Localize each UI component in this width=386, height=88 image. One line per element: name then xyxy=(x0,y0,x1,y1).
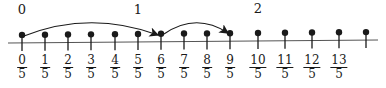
point-dot xyxy=(181,30,187,36)
fraction-denominator: 5 xyxy=(203,68,211,81)
number-line-graphic xyxy=(0,0,386,88)
fraction-label: 35 xyxy=(86,54,96,81)
fraction-denominator: 5 xyxy=(64,68,72,81)
whole-number-label: 0 xyxy=(18,2,26,17)
point-dot xyxy=(204,30,210,36)
fraction-denominator: 5 xyxy=(41,68,49,81)
fraction-numerator: 12 xyxy=(303,54,320,68)
number-line-axis xyxy=(8,40,378,43)
fraction-numerator: 3 xyxy=(86,54,96,68)
point-dot xyxy=(112,31,118,37)
point-dot xyxy=(336,29,342,35)
point-dot xyxy=(282,30,288,36)
whole-number-label: 2 xyxy=(254,1,262,16)
point-dot xyxy=(309,29,315,35)
fraction-label: 05 xyxy=(17,54,27,81)
point-dot xyxy=(135,31,141,37)
fraction-numerator: 8 xyxy=(202,54,212,68)
fraction-denominator: 5 xyxy=(87,68,95,81)
fraction-label: 105 xyxy=(249,54,266,81)
point-dot xyxy=(158,31,164,37)
fraction-label: 55 xyxy=(133,54,143,81)
fraction-label: 15 xyxy=(40,54,50,81)
point-dot xyxy=(255,30,261,36)
point-dot xyxy=(363,29,369,35)
fraction-denominator: 5 xyxy=(134,68,142,81)
fraction-numerator: 13 xyxy=(330,54,347,68)
fraction-label: 85 xyxy=(202,54,212,81)
fraction-label: 25 xyxy=(63,54,73,81)
fraction-label: 65 xyxy=(156,54,166,81)
fraction-denominator: 5 xyxy=(226,68,234,81)
fraction-denominator: 5 xyxy=(180,68,188,81)
point-dot xyxy=(42,32,48,38)
fraction-numerator: 4 xyxy=(110,54,120,68)
jump-arrow-6-to-9-fifths xyxy=(164,23,228,34)
whole-number-label: 1 xyxy=(134,2,142,17)
fraction-numerator: 2 xyxy=(63,54,73,68)
fraction-label: 95 xyxy=(225,54,235,81)
fraction-label: 115 xyxy=(276,54,293,81)
fraction-denominator: 5 xyxy=(335,68,343,81)
fraction-numerator: 1 xyxy=(40,54,50,68)
fraction-numerator: 6 xyxy=(156,54,166,68)
fraction-numerator: 11 xyxy=(276,54,293,68)
fraction-numerator: 9 xyxy=(225,54,235,68)
fraction-numerator: 0 xyxy=(17,54,27,68)
tick-marks xyxy=(19,29,369,51)
point-dot xyxy=(19,32,25,38)
fraction-denominator: 5 xyxy=(18,68,26,81)
fraction-label: 75 xyxy=(179,54,189,81)
fraction-label: 135 xyxy=(330,54,347,81)
fraction-denominator: 5 xyxy=(111,68,119,81)
fraction-denominator: 5 xyxy=(254,68,262,81)
fraction-label: 45 xyxy=(110,54,120,81)
fraction-numerator: 7 xyxy=(179,54,189,68)
point-dot xyxy=(65,31,71,37)
fraction-numerator: 10 xyxy=(249,54,266,68)
fraction-label: 125 xyxy=(303,54,320,81)
point-dot xyxy=(88,31,94,37)
fraction-numerator: 5 xyxy=(133,54,143,68)
fraction-denominator: 5 xyxy=(308,68,316,81)
fraction-denominator: 5 xyxy=(281,68,289,81)
fraction-denominator: 5 xyxy=(157,68,165,81)
